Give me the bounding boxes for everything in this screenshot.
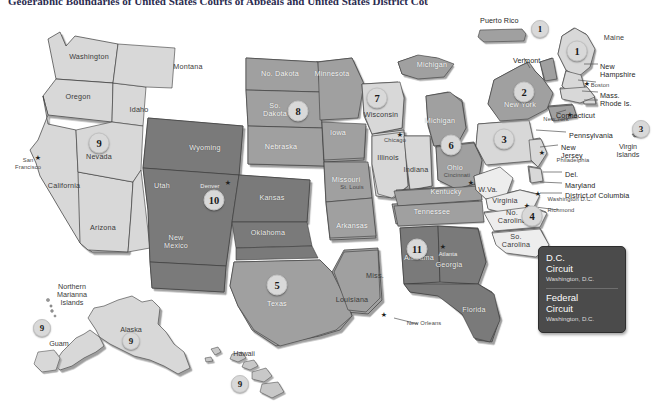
star-cincinnati-icon: ★ <box>468 179 474 186</box>
star-philadelphia-icon: ★ <box>539 149 545 156</box>
badge-1-maine: 1 <box>567 41 588 62</box>
badge-4-carolinas: 4 <box>522 206 543 227</box>
court-circuits-map: Geographic Boundaries of United States C… <box>0 0 669 410</box>
legend-federal-circuit-name: Federal <box>546 293 618 304</box>
map-geometry <box>0 0 669 410</box>
northern-marianna-shape <box>46 298 56 317</box>
star-san-francisco-icon: ★ <box>35 154 41 161</box>
legend-federal-circuit-city: Washington, D.C. <box>546 315 618 323</box>
badge-1-puertorico: 1 <box>531 20 549 38</box>
puerto-rico-shape <box>478 29 526 42</box>
badge-11-alabama: 11 <box>407 239 428 260</box>
circuit-legend: D.C. Circuit Washington, D.C. Federal Ci… <box>538 246 626 333</box>
legend-row-federal-circuit: Federal Circuit Washington, D.C. <box>546 288 618 326</box>
badge-8-dakotas: 8 <box>288 101 309 122</box>
star-boston-icon: ★ <box>584 80 590 87</box>
star-denver-icon: ★ <box>225 179 231 186</box>
star-atlanta-icon: ★ <box>440 243 446 250</box>
badge-6-ohio: 6 <box>441 135 462 156</box>
legend-dc-circuit-city: Washington, D.C. <box>546 275 618 283</box>
badge-9-alaska: 9 <box>122 332 140 350</box>
guam-shape <box>34 350 60 372</box>
star-washington-dc-icon: ★ <box>535 190 541 197</box>
badge-2-newyork: 2 <box>514 82 535 103</box>
legend-row-dc-circuit: D.C. Circuit Washington, D.C. <box>546 252 618 286</box>
badge-7-wisconsin: 7 <box>367 88 388 109</box>
badge-5-texas: 5 <box>267 275 288 296</box>
badge-9-nevada: 9 <box>89 133 110 154</box>
legend-federal-circuit-word: Circuit <box>546 304 618 315</box>
legend-dc-circuit-word: Circuit <box>546 264 618 275</box>
star-new-york-icon: ★ <box>567 111 573 118</box>
badge-10-colorado: 10 <box>204 190 225 211</box>
badge-3-virginislands: 3 <box>632 120 650 138</box>
star-chicago-icon: ★ <box>397 131 403 138</box>
badge-9-guam: 9 <box>33 319 51 337</box>
badge-3-pennsylvania: 3 <box>494 129 515 150</box>
alaska-shape <box>54 296 190 374</box>
star-new-orleans-icon: ★ <box>381 311 387 318</box>
badge-9-hawaii: 9 <box>231 375 249 393</box>
legend-dc-circuit-name: D.C. <box>546 253 618 264</box>
